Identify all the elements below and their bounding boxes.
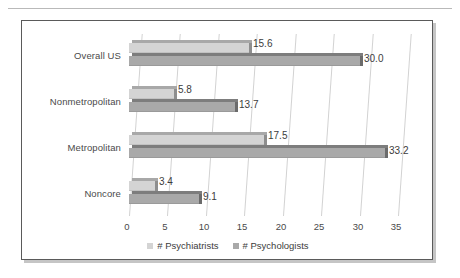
data-label-metropolitan-psychiatrists: 17.5 bbox=[268, 130, 287, 141]
bar-metropolitan-psychiatrists[interactable] bbox=[129, 132, 264, 145]
legend-swatch-icon-psychiatrists bbox=[147, 243, 153, 249]
chart-frame: Overall US 15.6 30.0 Nonmetropolitan bbox=[21, 20, 433, 260]
data-label-noncore-psychiatrists: 3.4 bbox=[159, 176, 173, 187]
legend-swatch-icon-psychologists bbox=[233, 243, 239, 249]
bar-front-face bbox=[129, 89, 174, 99]
xtick-label-15: 15 bbox=[231, 221, 253, 232]
gridline-35 bbox=[398, 34, 412, 216]
data-label-nonmetropolitan-psychologists: 13.7 bbox=[239, 99, 258, 110]
bar-overall-us-psychiatrists[interactable] bbox=[129, 40, 249, 53]
bar-front-face bbox=[129, 135, 264, 145]
chart-legend: # Psychiatrists # Psychologists bbox=[22, 240, 434, 251]
bar-nonmetropolitan-psychiatrists[interactable] bbox=[129, 86, 174, 99]
xtick-label-20: 20 bbox=[270, 221, 292, 232]
data-label-noncore-psychologists: 9.1 bbox=[203, 191, 217, 202]
data-label-overall-us-psychiatrists: 15.6 bbox=[253, 38, 272, 49]
top-horizontal-rule bbox=[8, 8, 452, 9]
bar-metropolitan-psychologists[interactable] bbox=[129, 145, 385, 158]
category-label-metropolitan: Metropolitan bbox=[0, 142, 121, 153]
xtick-label-0: 0 bbox=[116, 221, 138, 232]
legend-item-psychiatrists[interactable]: # Psychiatrists bbox=[147, 240, 218, 251]
bar-front-face bbox=[129, 194, 199, 204]
category-label-nonmetropolitan: Nonmetropolitan bbox=[0, 96, 121, 107]
data-label-nonmetropolitan-psychiatrists: 5.8 bbox=[178, 84, 192, 95]
xtick-label-25: 25 bbox=[308, 221, 330, 232]
category-label-overall-us: Overall US bbox=[0, 50, 121, 61]
bar-noncore-psychiatrists[interactable] bbox=[129, 178, 155, 191]
legend-label-psychologists: # Psychologists bbox=[243, 240, 309, 251]
xtick-label-35: 35 bbox=[385, 221, 407, 232]
bar-front-face bbox=[129, 102, 235, 112]
bar-noncore-psychologists[interactable] bbox=[129, 191, 199, 204]
category-label-noncore: Noncore bbox=[0, 188, 121, 199]
bar-front-face bbox=[129, 43, 249, 53]
xtick-label-10: 10 bbox=[193, 221, 215, 232]
bar-front-face bbox=[129, 181, 155, 191]
data-label-metropolitan-psychologists: 33.2 bbox=[389, 145, 408, 156]
data-label-overall-us-psychologists: 30.0 bbox=[364, 53, 383, 64]
bar-front-face bbox=[129, 56, 360, 66]
bar-front-face bbox=[129, 148, 385, 158]
legend-item-psychologists[interactable]: # Psychologists bbox=[233, 240, 309, 251]
legend-label-psychiatrists: # Psychiatrists bbox=[157, 240, 218, 251]
bar-overall-us-psychologists[interactable] bbox=[129, 53, 360, 66]
bar-nonmetropolitan-psychologists[interactable] bbox=[129, 99, 235, 112]
xtick-label-5: 5 bbox=[154, 221, 176, 232]
plot-area: Overall US 15.6 30.0 Nonmetropolitan bbox=[22, 21, 434, 261]
xtick-label-30: 30 bbox=[347, 221, 369, 232]
